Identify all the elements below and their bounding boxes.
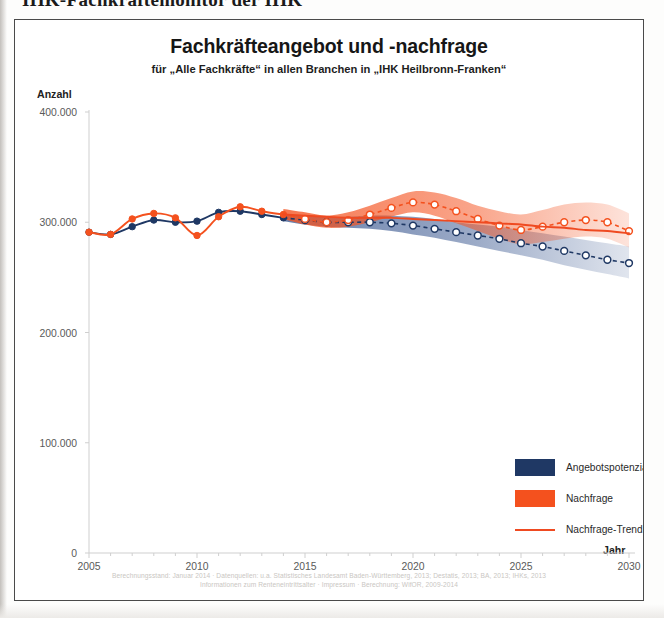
chart-card: Fachkräfteangebot und -nachfrage für „Al…: [14, 19, 644, 601]
legend-item[interactable]: Angebotspotenzial: [515, 452, 644, 483]
scan-edge-shadow: [0, 0, 7, 618]
legend-color-swatch: [515, 490, 555, 507]
legend-item[interactable]: Nachfrage-Trend: [515, 514, 644, 545]
scanned-page-background: IHK-Fachkräftemonitor der IHK Fachkräfte…: [0, 0, 664, 618]
footer-credits: Informationen zum Renteneintrittsalter ·…: [15, 581, 643, 588]
page-header-title: IHK-Fachkräftemonitor der IHK: [22, 0, 442, 11]
legend-item[interactable]: Nachfrage: [515, 483, 644, 514]
footer-sources: Berechnungsstand: Januar 2014 · Datenque…: [15, 572, 643, 579]
scan-bottom-shadow: [0, 604, 664, 618]
legend-label: Angebotspotenzial: [566, 462, 644, 473]
legend-label: Nachfrage-Trend: [566, 524, 643, 535]
legend-label: Nachfrage: [566, 493, 613, 504]
legend-color-swatch: [515, 459, 555, 476]
chart-legend: AngebotspotenzialNachfrageNachfrage-Tren…: [515, 452, 644, 545]
legend-line-marker: [515, 521, 555, 538]
